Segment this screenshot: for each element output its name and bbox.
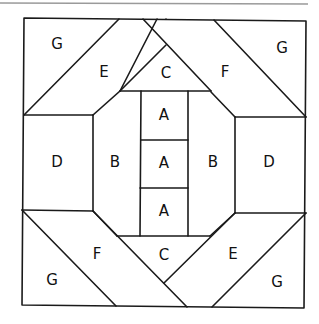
label-d-left: D [51,153,63,171]
d-left-bottom [22,210,93,211]
label-g-bottom-left: G [46,271,58,289]
a-col-left [140,91,141,236]
label-a-bottom: A [159,202,170,220]
label-f-bottom-left: F [93,245,102,263]
label-b-left: B [110,153,120,171]
diagonal-e-tl-inner [120,19,157,91]
b-right-top-diag [211,92,235,117]
diagonal-e-br-inner [164,213,235,283]
piece-labels: G E C F G D B A A A B D F C E G G [46,35,288,291]
label-e-bottom-right: E [228,245,237,263]
b-left-top-diag [93,91,120,115]
label-g-top-right: G [276,39,288,57]
label-a-top: A [159,106,170,124]
label-d-right: D [263,153,275,171]
label-g-bottom-right: G [271,273,283,291]
label-f-top-right: F [221,63,230,81]
label-c-top: C [161,64,171,82]
label-c-bottom: C [159,246,169,264]
diagonal-g-br [212,213,306,307]
c-top-left-edge [120,45,166,91]
diagonal-f-tr-inner [143,19,211,91]
top-rule [0,3,308,4]
label-a-middle: A [159,154,170,172]
label-b-right: B [208,153,218,171]
quilt-block-diagram: G E C F G D B A A A B D F C E G G [0,0,319,324]
diagonal-g-bl [22,210,116,306]
label-g-top-left: G [51,35,63,53]
label-e-top-left: E [99,63,108,81]
